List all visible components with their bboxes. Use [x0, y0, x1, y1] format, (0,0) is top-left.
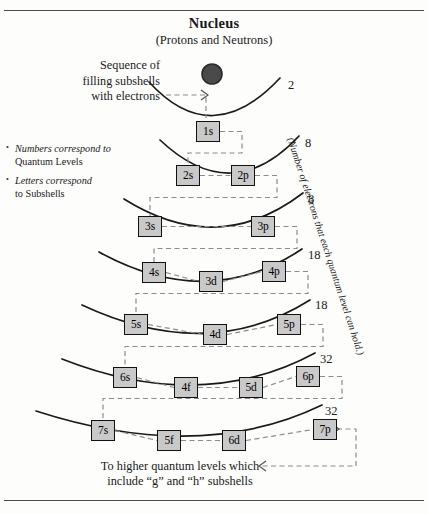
- capacity-level-1: 2: [288, 78, 294, 93]
- subshell-label: 5s: [131, 319, 141, 331]
- subshell-label: 6p: [302, 371, 313, 383]
- subshell-label: 7s: [98, 425, 108, 437]
- subshell-box-4s[interactable]: 4s: [142, 262, 166, 283]
- top-divider-rule: [4, 10, 424, 11]
- subshell-box-4p[interactable]: 4p: [262, 261, 286, 282]
- subshell-box-5d[interactable]: 5d: [239, 377, 263, 398]
- subshell-label: 5f: [164, 435, 173, 447]
- subshell-box-7p[interactable]: 7p: [313, 419, 337, 440]
- subshell-label: 2p: [237, 170, 248, 182]
- subshell-label: 6d: [228, 435, 239, 447]
- subshell-label: 6s: [120, 372, 130, 384]
- nucleus-circle: [202, 64, 222, 84]
- subshell-label: 4p: [268, 266, 279, 278]
- subshell-box-4f[interactable]: 4f: [174, 377, 198, 398]
- capacity-level-3: 8: [308, 192, 314, 207]
- subshell-box-5s[interactable]: 5s: [124, 314, 148, 335]
- link-5d-to-6p: [263, 377, 296, 388]
- subshell-label: 4d: [209, 329, 220, 341]
- subshell-box-5p[interactable]: 5p: [277, 314, 301, 335]
- subshell-box-6p[interactable]: 6p: [296, 366, 320, 387]
- sequence-label: Sequence offilling subshellswith electro…: [8, 58, 160, 105]
- subshell-box-1s[interactable]: 1s: [196, 121, 220, 142]
- legend-note-1: Numbers correspond toQuantum Levels: [6, 143, 136, 168]
- legend-note-emphasis: Numbers correspond to: [15, 143, 111, 154]
- link-6d-to-7p: [246, 430, 313, 441]
- capacity-level-6: 32: [320, 352, 333, 367]
- legend-notes: Numbers correspond toQuantum LevelsLette…: [6, 143, 136, 207]
- connector-2p-to-3s: [150, 176, 277, 217]
- subshell-label: 3p: [257, 221, 268, 233]
- subshell-label: 4s: [149, 267, 159, 279]
- subshell-box-2s[interactable]: 2s: [176, 165, 200, 186]
- subshell-box-2p[interactable]: 2p: [231, 165, 255, 186]
- bottom-divider-rule: [4, 500, 424, 501]
- subshell-label: 7p: [319, 424, 330, 436]
- subshell-box-6d[interactable]: 6d: [222, 430, 246, 451]
- subshell-label: 1s: [203, 126, 213, 138]
- legend-note-plain: to Subshells: [15, 188, 65, 199]
- subshell-box-4d[interactable]: 4d: [203, 324, 227, 345]
- connector-3p-to-4s: [154, 227, 297, 263]
- legend-note-emphasis: Letters correspond: [15, 175, 92, 186]
- legend-note-2: Letters correspondto Subshells: [6, 175, 136, 200]
- subshell-label: 3s: [145, 221, 155, 233]
- capacity-level-7: 32: [325, 404, 338, 419]
- atomic-subshell-filling-diagram: Nucleus (Protons and Neutrons) Sequence …: [0, 0, 428, 514]
- capacity-caption-wrapper: (Number of electrons that each quantum l…: [296, 136, 304, 144]
- subshell-label: 3d: [205, 276, 216, 288]
- higher-levels-caption: To higher quantum levels whichinclude “g…: [30, 459, 330, 489]
- subshell-label: 5d: [245, 382, 256, 394]
- subshell-box-5f[interactable]: 5f: [157, 430, 181, 451]
- legend-note-plain: Quantum Levels: [15, 156, 83, 167]
- subshell-box-3p[interactable]: 3p: [251, 216, 275, 237]
- subshell-box-7s[interactable]: 7s: [91, 420, 115, 441]
- capacity-level-4: 18: [308, 248, 321, 263]
- page-subtitle: (Protons and Neutrons): [0, 33, 428, 48]
- subshell-box-3s[interactable]: 3s: [138, 216, 162, 237]
- capacity-level-5: 18: [315, 298, 328, 313]
- subshell-label: 4f: [181, 382, 190, 394]
- subshell-box-6s[interactable]: 6s: [113, 367, 137, 388]
- subshell-box-3d[interactable]: 3d: [199, 271, 223, 292]
- capacity-level-2: 8: [305, 136, 311, 151]
- sequence-pointer-arrow: [166, 90, 208, 118]
- page-title: Nucleus: [0, 15, 428, 32]
- shell-arc-level-5: [82, 300, 310, 333]
- link-3d-to-4p: [223, 272, 262, 282]
- subshell-label: 2s: [183, 170, 193, 182]
- subshell-label: 5p: [283, 319, 294, 331]
- link-6s-to-4f: [137, 378, 174, 388]
